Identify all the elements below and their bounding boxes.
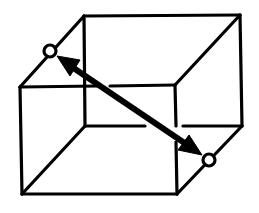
- back-face-top-edge: [84, 15, 240, 16]
- front-face-top-edge-left: [20, 86, 98, 87]
- edge-bottom-left-connector: [22, 126, 85, 194]
- front-face-left-edge: [20, 87, 22, 194]
- back-face-right-edge: [240, 15, 242, 126]
- back-face-left-edge: [84, 16, 85, 126]
- front-face-right-edge-top: [175, 85, 176, 126]
- end-vertex-marker: [203, 154, 215, 166]
- front-face-right-edge-bottom: [176, 142, 177, 194]
- edge-top-right-connector: [175, 15, 240, 85]
- arrow-shaft: [72, 67, 186, 144]
- start-vertex-marker: [44, 45, 56, 57]
- cube-diagonal-diagram: [0, 0, 259, 213]
- diagonal-arrow: [57, 56, 202, 155]
- front-face-top-edge-right: [110, 85, 175, 86]
